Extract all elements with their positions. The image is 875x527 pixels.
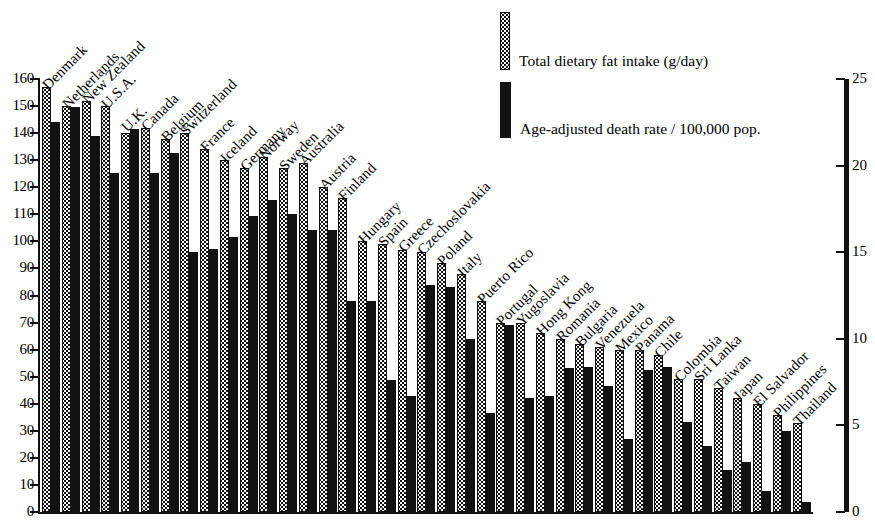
bar-group: [615, 350, 633, 512]
bar-death-rate: [71, 107, 80, 512]
left-axis-tick-label: 130: [0, 152, 34, 167]
bar-fat: [398, 250, 407, 513]
bar-fat: [437, 263, 446, 512]
bar-fat: [714, 388, 723, 512]
bar-group: [279, 168, 297, 512]
bar-death-rate: [229, 237, 238, 512]
legend-item-death: Age-adjusted death rate / 100,000 pop.: [500, 82, 761, 138]
left-axis-tick-label: 120: [0, 179, 34, 194]
bar-death-rate: [347, 301, 356, 512]
bar-fat: [101, 106, 110, 512]
right-axis-line: [844, 79, 849, 512]
bar-group: [141, 128, 159, 512]
left-axis-tick-label: 110: [0, 206, 34, 221]
bar-fat: [575, 344, 584, 512]
bar-group: [437, 263, 455, 512]
bar-group: [556, 339, 574, 512]
bar-fat: [496, 323, 505, 512]
left-axis-tick-label: 60: [0, 342, 34, 357]
left-axis-tick-label: 40: [0, 396, 34, 411]
bar-death-rate: [170, 153, 179, 512]
right-axis-tick-label: 0: [852, 504, 860, 519]
bar-group: [753, 404, 771, 512]
bar-group: [674, 379, 692, 512]
bar-fat: [753, 404, 762, 512]
bar-group: [62, 106, 80, 512]
bar-death-rate: [446, 287, 455, 512]
bar-death-rate: [288, 214, 297, 512]
bar-death-rate: [486, 413, 495, 512]
bar-fat: [378, 244, 387, 512]
bar-group: [338, 198, 356, 512]
bar-group: [714, 388, 732, 512]
right-axis-tick-label: 20: [852, 158, 867, 173]
bar-death-rate: [367, 301, 376, 512]
bar-fat: [220, 160, 229, 512]
bar-fat: [457, 274, 466, 512]
bar-death-rate: [209, 249, 218, 512]
left-axis-tick-label: 50: [0, 369, 34, 384]
bar-fat: [654, 355, 663, 512]
legend-label-death: Age-adjusted death rate / 100,000 pop.: [520, 121, 761, 137]
bar-fat: [477, 301, 486, 512]
bar-fat: [536, 333, 545, 512]
bar-group: [358, 241, 376, 512]
left-axis-tick-label: 140: [0, 125, 34, 140]
bar-death-rate: [328, 230, 337, 512]
bar-death-rate: [624, 439, 633, 512]
left-axis-tick-label: 10: [0, 477, 34, 492]
bar-death-rate: [189, 252, 198, 512]
bar-fat: [556, 339, 565, 512]
bar-death-rate: [268, 200, 277, 512]
right-axis-tick-label: 5: [852, 417, 860, 432]
left-axis-tick-label: 90: [0, 260, 34, 275]
left-axis-tick-label: 70: [0, 315, 34, 330]
bar-death-rate: [782, 431, 791, 512]
bar-death-rate: [505, 325, 514, 512]
bar-death-rate: [604, 386, 613, 512]
left-axis-tick-label: 20: [0, 450, 34, 465]
left-axis-tick-label: 160: [0, 71, 34, 86]
bar-death-rate: [802, 502, 811, 512]
bar-death-rate: [110, 173, 119, 512]
bar-death-rate: [644, 370, 653, 512]
bar-death-rate: [407, 396, 416, 512]
bar-group: [378, 244, 396, 512]
legend-label-fat: Total dietary fat intake (g/day): [519, 53, 708, 69]
bar-group: [180, 133, 198, 512]
bar-fat: [595, 347, 604, 512]
bar-death-rate: [663, 367, 672, 512]
bar-death-rate: [51, 122, 60, 512]
bar-fat: [62, 106, 71, 512]
bar-group: [121, 129, 139, 512]
bar-fat: [319, 187, 328, 512]
bar-death-rate: [308, 230, 317, 512]
bar-group: [240, 168, 258, 512]
chart-root: 0102030405060708090100110120130140150160…: [0, 0, 875, 527]
bar-death-rate: [525, 398, 534, 512]
left-axis-tick-label: 30: [0, 423, 34, 438]
right-axis-tick-label: 10: [852, 331, 867, 346]
legend: Total dietary fat intake (g/day) Age-adj…: [500, 4, 870, 140]
bar-fat: [358, 241, 367, 512]
bar-group: [575, 344, 593, 512]
bar-fat: [42, 87, 51, 512]
right-axis-tick: [836, 424, 845, 426]
bar-fat: [793, 423, 802, 512]
bar-fat: [694, 379, 703, 512]
bar-group: [457, 274, 475, 512]
bar-group: [220, 160, 238, 512]
bar-fat: [279, 168, 288, 512]
bar-fat: [417, 252, 426, 512]
bar-group: [299, 163, 317, 512]
bar-fat: [141, 128, 150, 512]
bar-death-rate: [387, 380, 396, 512]
bar-death-rate: [703, 446, 712, 512]
bar-fat: [635, 350, 644, 512]
bar-fat: [200, 149, 209, 512]
bar-fat: [733, 398, 742, 512]
legend-item-fat: Total dietary fat intake (g/day): [500, 12, 708, 70]
bar-group: [42, 87, 60, 512]
bar-fat: [240, 168, 249, 512]
bar-death-rate: [130, 129, 139, 512]
